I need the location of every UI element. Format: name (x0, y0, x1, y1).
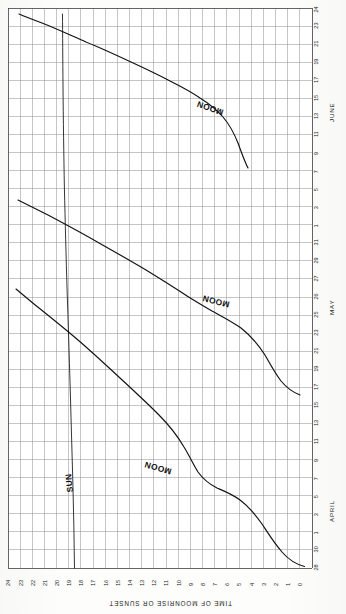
time-tick: 24 (5, 580, 11, 586)
date-tick: 15 (313, 95, 319, 101)
date-tick: 31 (313, 239, 319, 245)
date-tick: 19 (313, 59, 319, 65)
time-tick: 9 (188, 583, 194, 586)
time-tick: 5 (236, 583, 242, 586)
time-tick: 4 (249, 583, 255, 586)
time-tick: 3 (261, 583, 267, 586)
time-tick: 7 (212, 583, 218, 586)
chart-svg: 24 23 22 21 20 19 18 17 16 15 14 13 12 1… (0, 0, 346, 614)
time-tick: 15 (115, 580, 121, 586)
date-tick: 30 (313, 546, 319, 552)
date-tick: 26 (313, 293, 319, 299)
scanned-chart-page: 24 23 22 21 20 19 18 17 16 15 14 13 12 1… (0, 0, 346, 614)
date-tick: 29 (313, 257, 319, 263)
month-label-june: JUNE (328, 103, 335, 122)
date-axis-tick-labels: 28 30 1 3 5 7 9 11 13 15 17 19 21 23 25 … (313, 6, 319, 570)
month-label-may: MAY (328, 300, 335, 315)
time-tick: 0 (297, 583, 303, 586)
date-tick: 9 (313, 152, 319, 155)
almanac-chart-figure: 24 23 22 21 20 19 18 17 16 15 14 13 12 1… (0, 0, 346, 614)
date-tick: 11 (313, 438, 319, 444)
time-tick: 14 (127, 580, 133, 586)
plot-background (8, 8, 312, 568)
date-tick: 5 (313, 188, 319, 191)
date-tick: 27 (313, 275, 319, 281)
time-tick: 16 (103, 580, 109, 586)
date-tick: 9 (313, 459, 319, 462)
time-tick: 20 (54, 580, 60, 586)
value-axis-title: TIME OF MOONRISE OR SUNSET (109, 600, 232, 607)
time-tick: 10 (176, 580, 182, 586)
time-tick: 6 (224, 583, 230, 586)
date-tick: 1 (313, 531, 319, 534)
date-tick: 13 (313, 113, 319, 119)
month-labels: APRIL MAY JUNE (328, 103, 335, 522)
date-tick: 13 (313, 420, 319, 426)
date-tick: 1 (313, 224, 319, 227)
time-tick: 11 (163, 580, 169, 586)
date-tick: 17 (313, 77, 319, 83)
date-tick: 17 (313, 384, 319, 390)
date-tick: 19 (313, 366, 319, 372)
date-tick: 11 (313, 131, 319, 137)
time-tick: 23 (18, 580, 24, 586)
time-axis-tick-labels: 24 23 22 21 20 19 18 17 16 15 14 13 12 1… (5, 580, 303, 586)
date-tick: 23 (313, 329, 319, 335)
time-tick: 18 (78, 580, 84, 586)
time-tick: 19 (66, 580, 72, 586)
date-tick: 3 (313, 513, 319, 516)
time-tick: 12 (151, 580, 157, 586)
date-tick: 7 (313, 477, 319, 480)
date-tick: 23 (313, 22, 319, 28)
time-tick: 22 (30, 580, 36, 586)
date-tick: 7 (313, 170, 319, 173)
month-label-april: APRIL (328, 500, 335, 522)
date-tick: 21 (313, 348, 319, 354)
date-tick: 28 (313, 564, 319, 570)
time-tick: 2 (273, 583, 279, 586)
date-tick: 25 (313, 311, 319, 317)
curve-label-sun: SUN (63, 473, 75, 493)
time-tick: 13 (139, 580, 145, 586)
time-tick: 17 (90, 580, 96, 586)
date-tick: 3 (313, 206, 319, 209)
date-tick: 24 (313, 6, 319, 12)
date-tick: 5 (313, 495, 319, 498)
time-tick: 21 (42, 580, 48, 586)
time-tick: 1 (285, 583, 291, 586)
date-tick: 21 (313, 41, 319, 47)
date-tick: 15 (313, 402, 319, 408)
time-tick: 8 (200, 583, 206, 586)
